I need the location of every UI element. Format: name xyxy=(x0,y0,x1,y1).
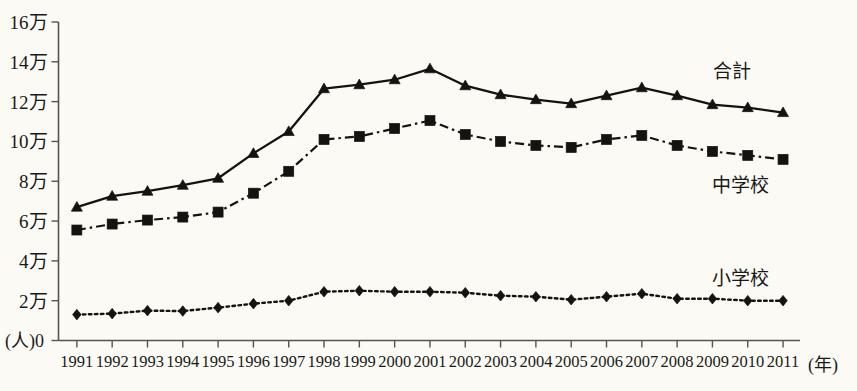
x-tick-label: 2009 xyxy=(696,352,729,371)
y-tick-label: 4万 xyxy=(19,251,48,272)
x-tick-label: 1998 xyxy=(308,352,341,371)
y-tick-label: 12万 xyxy=(10,92,48,113)
x-tick-label: 1991 xyxy=(60,352,93,371)
data-point-marker-junior-high xyxy=(284,166,294,176)
data-point-marker-elementary xyxy=(567,294,575,305)
data-point-marker-elementary xyxy=(602,291,610,302)
data-point-marker-elementary xyxy=(390,286,398,297)
data-point-marker-elementary xyxy=(673,293,681,304)
y-tick-label: 8万 xyxy=(19,171,48,192)
data-point-marker-junior-high xyxy=(107,219,117,229)
data-point-marker-elementary xyxy=(214,302,222,313)
x-tick-label: 2008 xyxy=(661,352,694,371)
data-point-marker-elementary xyxy=(426,286,434,297)
y-axis-unit-label: (人)0 xyxy=(5,331,44,352)
y-tick-label: 2万 xyxy=(19,291,48,312)
data-point-marker-junior-high xyxy=(707,146,717,156)
x-tick-label: 2010 xyxy=(731,352,764,371)
data-point-marker-junior-high xyxy=(460,129,470,139)
data-point-marker-elementary xyxy=(779,295,787,306)
data-point-marker-elementary xyxy=(355,285,363,296)
data-point-marker-elementary xyxy=(143,305,151,316)
y-axis-ticks xyxy=(52,22,59,341)
data-point-marker-junior-high xyxy=(602,134,612,144)
data-point-marker-junior-high xyxy=(72,225,82,235)
data-point-marker-elementary xyxy=(638,288,646,299)
data-point-marker-elementary xyxy=(108,308,116,319)
x-tick-label: 2006 xyxy=(590,352,623,371)
chart-markers-group xyxy=(71,63,788,320)
data-point-marker-total xyxy=(248,148,259,158)
chart-series-group xyxy=(77,69,783,315)
y-axis-tick-labels: 16万14万12万10万8万6万4万2万 xyxy=(10,12,48,312)
data-point-marker-elementary xyxy=(496,290,504,301)
data-point-marker-junior-high xyxy=(637,130,647,140)
y-tick-label: 16万 xyxy=(10,12,48,33)
x-tick-label: 2004 xyxy=(519,352,552,371)
y-tick-label: 14万 xyxy=(10,52,48,73)
data-point-marker-elementary xyxy=(744,295,752,306)
data-point-marker-junior-high xyxy=(778,154,788,164)
x-tick-label: 2002 xyxy=(449,352,482,371)
data-point-marker-junior-high xyxy=(178,212,188,222)
x-tick-label: 2001 xyxy=(413,352,446,371)
data-point-marker-junior-high xyxy=(390,123,400,133)
data-point-marker-junior-high xyxy=(142,215,152,225)
x-tick-label: 2000 xyxy=(378,352,411,371)
x-axis-ticks xyxy=(77,341,783,348)
data-point-marker-junior-high xyxy=(496,136,506,146)
data-point-marker-junior-high xyxy=(248,188,258,198)
data-point-marker-elementary xyxy=(284,295,292,306)
x-tick-label: 2005 xyxy=(555,352,588,371)
chart-plot-area: 16万14万12万10万8万6万4万2万 1991199219931994199… xyxy=(0,0,857,391)
data-point-marker-total xyxy=(636,82,647,92)
x-tick-label: 1994 xyxy=(166,352,199,371)
data-point-marker-junior-high xyxy=(319,134,329,144)
data-point-marker-junior-high xyxy=(531,140,541,150)
data-point-marker-junior-high xyxy=(354,131,364,141)
data-point-marker-junior-high xyxy=(425,116,435,126)
data-point-marker-junior-high xyxy=(566,142,576,152)
data-point-marker-elementary xyxy=(73,309,81,320)
data-point-marker-total xyxy=(213,173,224,183)
data-point-marker-elementary xyxy=(461,287,469,298)
data-point-marker-junior-high xyxy=(743,150,753,160)
line-chart: 16万14万12万10万8万6万4万2万 1991199219931994199… xyxy=(0,0,857,391)
x-tick-label: 2011 xyxy=(767,352,799,371)
y-tick-label: 6万 xyxy=(19,211,48,232)
x-tick-label: 1992 xyxy=(96,352,129,371)
data-point-marker-junior-high xyxy=(213,207,223,217)
x-tick-label: 1995 xyxy=(202,352,235,371)
data-point-marker-elementary xyxy=(708,293,716,304)
series-label-total: 合計 xyxy=(713,61,751,82)
data-point-marker-elementary xyxy=(320,286,328,297)
data-point-marker-total xyxy=(424,63,435,73)
x-tick-label: 1996 xyxy=(237,352,270,371)
series-label-junior-high: 中学校 xyxy=(712,175,769,196)
x-tick-label: 1993 xyxy=(131,352,164,371)
y-tick-label: 10万 xyxy=(10,131,48,152)
x-tick-label: 2007 xyxy=(625,352,658,371)
x-axis-unit-label: (年) xyxy=(808,355,838,376)
data-point-marker-elementary xyxy=(179,306,187,317)
series-label-elementary: 小学校 xyxy=(712,268,769,289)
x-tick-label: 1999 xyxy=(343,352,376,371)
x-tick-label: 1997 xyxy=(272,352,305,371)
x-tick-label: 2003 xyxy=(484,352,517,371)
data-point-marker-elementary xyxy=(249,298,257,309)
data-point-marker-junior-high xyxy=(672,140,682,150)
data-point-marker-elementary xyxy=(532,291,540,302)
x-axis-tick-labels: 1991199219931994199519961997199819992000… xyxy=(60,352,799,371)
